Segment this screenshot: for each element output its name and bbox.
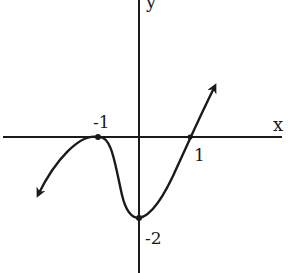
curve-left-arm — [38, 137, 98, 195]
tick-label-1: 1 — [194, 145, 205, 165]
point-1-0 — [188, 135, 193, 140]
point-0-neg2 — [136, 215, 142, 221]
tick-label-neg2: -2 — [145, 228, 162, 248]
tick-label-neg1: -1 — [93, 112, 110, 132]
point-neg1-0 — [95, 134, 101, 140]
x-axis-label: x — [273, 114, 283, 135]
curve-middle — [98, 137, 139, 218]
function-graph: y x -1 1 -2 — [0, 0, 293, 273]
y-axis-label: y — [145, 0, 157, 12]
